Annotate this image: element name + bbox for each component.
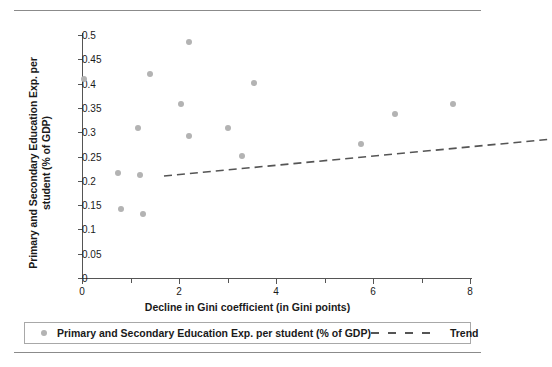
x-tick-mark (470, 279, 471, 284)
data-point (115, 170, 121, 176)
y-tick-mark (78, 108, 82, 109)
y-tick-mark (78, 59, 82, 60)
y-tick-mark (78, 181, 82, 182)
legend-scatter-marker-icon (41, 330, 47, 336)
x-tick-label: 8 (467, 286, 473, 297)
y-tick-mark (78, 132, 82, 133)
data-point (135, 125, 141, 131)
legend-scatter-label: Primary and Secondary Education Exp. per… (57, 327, 371, 339)
data-point (239, 153, 245, 159)
x-tick-mark (276, 279, 277, 284)
data-point (186, 39, 192, 45)
data-point (251, 80, 257, 86)
data-point (358, 141, 364, 147)
y-tick-mark (78, 254, 82, 255)
x-minor-tick-mark (228, 279, 229, 283)
x-axis-title: Decline in Gini coefficient (in Gini poi… (0, 301, 495, 313)
x-tick-mark (373, 279, 374, 284)
x-tick-label: 6 (370, 286, 376, 297)
data-point (186, 133, 192, 139)
top-divider-rule (14, 10, 481, 11)
legend-trend-label: Trend (450, 327, 479, 339)
plot-area (82, 35, 470, 278)
data-point (147, 71, 153, 77)
data-point (450, 101, 456, 107)
x-minor-tick-mark (131, 279, 132, 283)
y-tick-mark (78, 35, 82, 36)
x-tick-mark (82, 279, 83, 284)
chart-legend: Primary and Secondary Education Exp. per… (24, 322, 471, 344)
data-point (118, 206, 124, 212)
x-tick-label: 0 (79, 286, 85, 297)
trend-line (164, 70, 552, 313)
bottom-divider-rule (14, 352, 481, 353)
data-point (178, 101, 184, 107)
y-tick-mark (78, 229, 82, 230)
x-minor-tick-mark (325, 279, 326, 283)
y-axis-title: Primary and Secondary Education Exp. per… (27, 38, 53, 288)
data-point (81, 76, 87, 82)
legend-trend-marker-icon (371, 332, 430, 334)
data-point (137, 172, 143, 178)
x-tick-label: 2 (176, 286, 182, 297)
y-tick-mark (78, 84, 82, 85)
y-tick-mark (78, 157, 82, 158)
data-point (140, 211, 146, 217)
x-tick-label: 4 (273, 286, 279, 297)
data-point (225, 125, 231, 131)
x-minor-tick-mark (422, 279, 423, 283)
data-point (392, 111, 398, 117)
x-tick-mark (179, 279, 180, 284)
y-tick-mark (78, 205, 82, 206)
